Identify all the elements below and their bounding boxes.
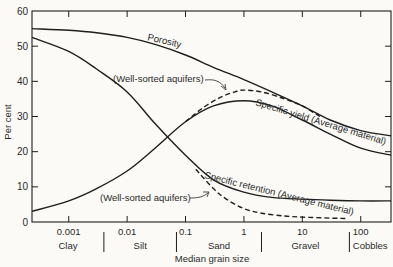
y-tick-label: 30: [17, 111, 29, 122]
grain-class-label: Cobbles: [353, 240, 388, 251]
chart: 01020304050600.0010.010.1110100ClaySiltS…: [0, 0, 393, 267]
grain-class-label: Sand: [208, 240, 230, 251]
x-tick-label: 0.001: [57, 226, 81, 237]
specific-yield-label: Specific yield (Average material): [254, 96, 387, 146]
grain-class-label: Silt: [134, 240, 148, 251]
specific-retention-label: Specific retention (Average material): [204, 169, 356, 217]
curve-specific-yield-average-material: [32, 101, 391, 212]
y-tick-label: 40: [17, 76, 29, 87]
plot-frame: [32, 11, 391, 222]
x-tick-label: 0.01: [118, 226, 137, 237]
well-sorted-retention-label: (Well-sorted aquifers): [100, 192, 191, 203]
well-sorted-yield-label: (Well-sorted aquifers): [113, 73, 204, 84]
y-axis-title: Per cent: [2, 104, 13, 140]
grain-class-label: Gravel: [291, 240, 319, 251]
x-tick-label: 0.1: [179, 226, 192, 237]
y-tick-label: 20: [17, 146, 29, 157]
y-tick-label: 10: [17, 181, 29, 192]
grain-class-label: Clay: [58, 240, 77, 251]
annotations: Porosity (Well-sorted aquifers) Specific…: [100, 31, 388, 217]
x-tick-label: 100: [353, 226, 369, 237]
arrow-lower: [190, 193, 208, 198]
y-tick-label: 60: [17, 6, 29, 17]
y-tick-label: 50: [17, 41, 29, 52]
x-tick-label: 10: [297, 226, 308, 237]
x-axis-title: Median grain size: [175, 253, 249, 264]
arrowhead-upper: [221, 84, 226, 90]
y-tick-label: 0: [22, 217, 28, 228]
x-tick-label: 1: [241, 226, 246, 237]
